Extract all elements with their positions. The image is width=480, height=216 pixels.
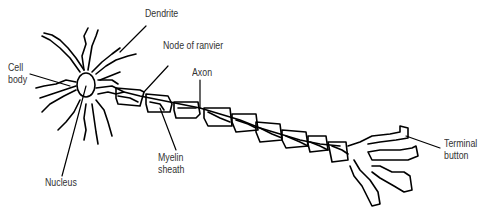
leader-myelin-sheath bbox=[160, 108, 176, 150]
leader-terminal-button bbox=[406, 136, 440, 148]
label-terminal-line1: Terminal bbox=[444, 138, 477, 150]
axon bbox=[96, 86, 340, 146]
axon-terminals bbox=[348, 126, 418, 206]
leader-nucleus bbox=[62, 86, 86, 176]
myelin-sheath-segments bbox=[116, 88, 348, 162]
leader-node-of-ranvier bbox=[144, 66, 168, 92]
label-terminal-line2: button bbox=[444, 150, 468, 162]
leader-dendrite bbox=[120, 26, 146, 52]
label-axon: Axon bbox=[192, 67, 212, 79]
label-cell-body-line1: Cell bbox=[8, 62, 23, 74]
label-dendrite: Dendrite bbox=[145, 8, 178, 20]
label-myelin-line2: sheath bbox=[158, 164, 184, 176]
cell-body bbox=[77, 73, 95, 97]
label-node-of-ranvier: Node of ranvier bbox=[163, 40, 223, 52]
label-nucleus: Nucleus bbox=[45, 177, 77, 189]
neuron-diagram: Dendrite Cell body Node of ranvier Axon … bbox=[0, 0, 480, 216]
label-cell-body-line2: body bbox=[8, 74, 27, 86]
label-myelin-line1: Myelin bbox=[158, 152, 183, 164]
